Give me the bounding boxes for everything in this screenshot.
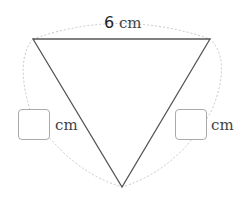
top-side-value: 6: [104, 13, 114, 32]
top-side-label: 6 cm: [104, 15, 142, 31]
top-side-unit: cm: [119, 14, 142, 32]
left-side-unit: cm: [55, 118, 78, 133]
right-side-unit: cm: [211, 118, 234, 133]
left-side-answer-box[interactable]: [18, 109, 50, 140]
right-side-answer-box[interactable]: [175, 109, 207, 140]
dotted-outline: [23, 24, 221, 188]
